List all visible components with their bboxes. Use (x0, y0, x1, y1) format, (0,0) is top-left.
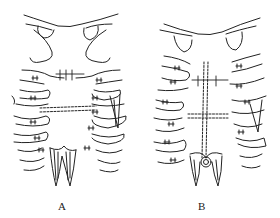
chest-wall-diagram-b (140, 0, 280, 200)
chest-wall-diagram-a (0, 0, 140, 200)
panel-b: B (140, 0, 280, 218)
panel-a: A (0, 0, 140, 218)
panel-label-a: A (58, 200, 66, 212)
panel-label-b: B (198, 200, 205, 212)
